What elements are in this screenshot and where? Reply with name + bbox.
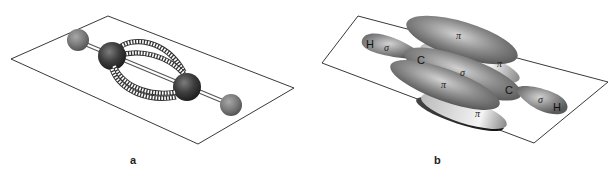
carbon-atom-left — [98, 42, 126, 70]
atom-label-h-right: H — [553, 101, 561, 113]
atom-label-c-right: C — [505, 84, 513, 96]
panel-label-b: b — [434, 154, 441, 166]
carbon-atom-right — [173, 73, 201, 101]
panel-label-a: a — [130, 154, 136, 166]
panel-a-model — [11, 16, 294, 144]
hydrogen-atom-right — [220, 94, 242, 116]
ethyne-bonding-diagram: H σ C π π σ π C σ H π — [0, 0, 615, 171]
hydrogen-atom-left — [67, 29, 89, 51]
molecular-plane-a — [11, 16, 294, 144]
atom-label-c-left: C — [417, 54, 425, 66]
panel-b-orbitals: H σ C π π σ π C σ H π — [322, 6, 608, 143]
atom-label-h-left: H — [366, 38, 374, 50]
